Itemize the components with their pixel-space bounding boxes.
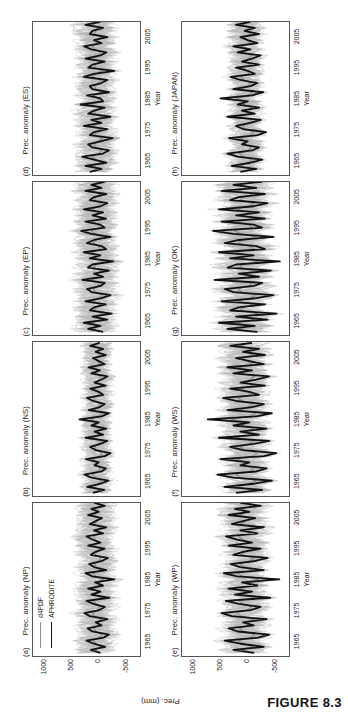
- panel-title-text: Prec. anomaly (OK): [170, 245, 179, 314]
- plot-area: [181, 21, 290, 176]
- x-tick-label: 1995: [144, 380, 152, 396]
- panel-title-text: Prec. anomaly (NS): [21, 406, 30, 475]
- axes-frame: [181, 181, 290, 336]
- panel-title: (h)Prec. anomaly (JAPAN): [169, 21, 181, 176]
- axes-frame: [181, 21, 290, 176]
- x-tick-label: 1975: [293, 282, 301, 298]
- x-tick-label: 1995: [293, 541, 301, 557]
- panel-grid: (a)Prec. anomaly (NP)10005000-500d4PDFAP…: [20, 21, 312, 657]
- panel-ok: (g)Prec. anomaly (OK)1965197519851995200…: [169, 181, 312, 336]
- panel-title-text: Prec. anomaly (ES): [21, 86, 30, 155]
- axes-frame: [181, 342, 290, 497]
- panel-tag: (f): [170, 489, 179, 497]
- axes-frame: [181, 502, 290, 657]
- x-tick-strip: 19651975198519952005: [290, 502, 301, 657]
- legend-line-icon: [51, 622, 52, 648]
- legend-line-icon: [40, 622, 41, 648]
- x-tick-label: 1975: [144, 122, 152, 138]
- legend-item: APHRODITE: [48, 579, 55, 647]
- x-tick-label: 2005: [293, 189, 301, 205]
- y-axis-title: Prec. (mm): [14, 695, 306, 709]
- x-tick-label: 1965: [144, 313, 152, 329]
- x-tick-strip: 19651975198519952005: [141, 502, 152, 657]
- figure-caption: FIGURE 8.3: [267, 695, 342, 710]
- x-tick-label: 1995: [293, 60, 301, 76]
- x-axis-title: Year: [152, 502, 163, 657]
- panel-row: (e)Prec. anomaly (WP)10005000-5001965197…: [169, 21, 312, 657]
- x-tick-label: 1985: [144, 251, 152, 267]
- x-tick-label: 2005: [293, 509, 301, 525]
- panel-ns: (b)Prec. anomaly (NS)1965197519851995200…: [20, 342, 163, 497]
- x-tick-label: 1965: [293, 153, 301, 169]
- x-axis-title: Year: [301, 181, 312, 336]
- x-tick-label: 1985: [293, 572, 301, 588]
- x-tick-label: 1975: [293, 442, 301, 458]
- panel-tag: (b): [21, 487, 30, 497]
- x-axis-title: Year: [301, 21, 312, 176]
- x-tick-strip: 19651975198519952005: [290, 342, 301, 497]
- x-tick-label: 1985: [144, 572, 152, 588]
- x-axis-title: Year: [301, 342, 312, 497]
- panel-title-text: Prec. anomaly (EP): [21, 247, 30, 316]
- panel-wp: (e)Prec. anomaly (WP)10005000-5001965197…: [169, 502, 312, 657]
- legend-item: d4PDF: [37, 579, 44, 647]
- plot-area: [32, 21, 141, 176]
- x-tick-label: 1975: [293, 603, 301, 619]
- panel-es: (d)Prec. anomaly (ES)1965197519851995200…: [20, 21, 163, 176]
- axes-frame: [32, 21, 141, 176]
- y-tick-label: 0: [243, 659, 250, 703]
- x-axis-title: Year: [152, 21, 163, 176]
- plot-area: 10005000-500: [181, 502, 290, 657]
- x-tick-label: 1995: [293, 220, 301, 236]
- panel-title: (c)Prec. anomaly (EP): [20, 181, 32, 336]
- panel-tag: (d): [21, 167, 30, 177]
- x-tick-label: 1995: [144, 60, 152, 76]
- x-tick-label: 1965: [144, 473, 152, 489]
- x-tick-label: 1985: [293, 91, 301, 107]
- panel-tag: (e): [170, 647, 179, 657]
- x-tick-label: 2005: [144, 189, 152, 205]
- y-tick-label: 500: [67, 659, 74, 703]
- x-tick-label: 1965: [144, 634, 152, 650]
- x-tick-label: 2005: [293, 349, 301, 365]
- plot-area: [32, 342, 141, 497]
- x-tick-label: 2005: [144, 509, 152, 525]
- panel-row: (a)Prec. anomaly (NP)10005000-500d4PDFAP…: [20, 21, 163, 657]
- panel-np: (a)Prec. anomaly (NP)10005000-500d4PDFAP…: [20, 502, 163, 657]
- panel-tag: (h): [170, 167, 179, 177]
- y-tick-label: 1000: [39, 659, 46, 703]
- x-tick-strip: 19651975198519952005: [290, 21, 301, 176]
- x-tick-label: 1965: [293, 313, 301, 329]
- x-tick-label: 1995: [144, 220, 152, 236]
- x-axis-title: Year: [152, 181, 163, 336]
- panel-title-text: Prec. anomaly (WP): [170, 565, 179, 636]
- panel-ws: (f)Prec. anomaly (WS)1965197519851995200…: [169, 342, 312, 497]
- legend-label: APHRODITE: [48, 579, 55, 617]
- x-tick-strip: 19651975198519952005: [141, 21, 152, 176]
- x-tick-label: 1975: [144, 442, 152, 458]
- x-tick-label: 2005: [293, 29, 301, 45]
- panel-title-text: Prec. anomaly (JAPAN): [170, 72, 179, 155]
- x-tick-strip: 19651975198519952005: [141, 342, 152, 497]
- panel-title-text: Prec. anomaly (WS): [170, 406, 179, 477]
- panel-title: (f)Prec. anomaly (WS): [169, 342, 181, 497]
- x-tick-strip: 19651975198519952005: [141, 181, 152, 336]
- x-tick-label: 1995: [293, 380, 301, 396]
- axes-frame: [32, 342, 141, 497]
- x-tick-label: 1985: [293, 251, 301, 267]
- panel-tag: (a): [21, 647, 30, 657]
- panel-title: (g)Prec. anomaly (OK): [169, 181, 181, 336]
- panel-tag: (g): [170, 327, 179, 337]
- panel-title-text: Prec. anomaly (NP): [21, 566, 30, 635]
- panel-title: (d)Prec. anomaly (ES): [20, 21, 32, 176]
- x-tick-label: 1975: [144, 282, 152, 298]
- x-axis-title: Year: [301, 502, 312, 657]
- x-tick-label: 1985: [293, 411, 301, 427]
- plot-area: [32, 181, 141, 336]
- x-tick-label: 2005: [144, 29, 152, 45]
- x-tick-label: 1985: [144, 411, 152, 427]
- y-tick-label: 1000: [188, 659, 195, 703]
- x-tick-label: 1965: [144, 153, 152, 169]
- x-tick-label: 1995: [144, 541, 152, 557]
- x-tick-strip: 19651975198519952005: [290, 181, 301, 336]
